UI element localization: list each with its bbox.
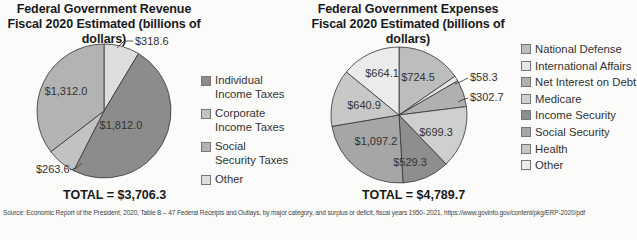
expenses-legend: National Defense International Affairs N… <box>521 41 636 174</box>
legend-swatch <box>521 77 531 87</box>
legend-item-income-security: Income Security <box>521 107 636 124</box>
slice-value-label: $724.5 <box>401 71 435 83</box>
legend-swatch <box>521 94 531 104</box>
source-note: Source: Economic Report of the President… <box>3 208 585 217</box>
legend-item-national-defense: National Defense <box>521 41 636 58</box>
legend-swatch <box>521 160 531 170</box>
slice-value-label: $640.9 <box>347 99 381 111</box>
legend-swatch <box>521 61 531 71</box>
expenses-total: TOTAL = $4,789.7 <box>362 188 465 202</box>
legend-item-medicare: Medicare <box>521 91 636 108</box>
slice-value-label: $1,097.2 <box>355 135 398 147</box>
legend-item-social-security: Social Security <box>521 124 636 141</box>
slice-value-label: $302.7 <box>470 91 504 103</box>
legend-swatch <box>521 144 531 154</box>
slice-value-label: $664.1 <box>365 67 399 79</box>
legend-swatch <box>521 44 531 54</box>
legend-item-other: Other <box>521 157 636 174</box>
legend-swatch <box>521 127 531 137</box>
slice-value-label: $699.3 <box>419 126 453 138</box>
slice-value-label: $529.3 <box>393 156 427 168</box>
legend-item-international-affairs: International Affairs <box>521 58 636 75</box>
slice-value-label: $58.3 <box>470 71 498 83</box>
legend-swatch <box>521 110 531 120</box>
legend-item-net-interest-on-debt: Net Interest on Debt <box>521 74 636 91</box>
pie-slice-social-security <box>332 115 403 183</box>
legend-item-health: Health <box>521 141 636 158</box>
